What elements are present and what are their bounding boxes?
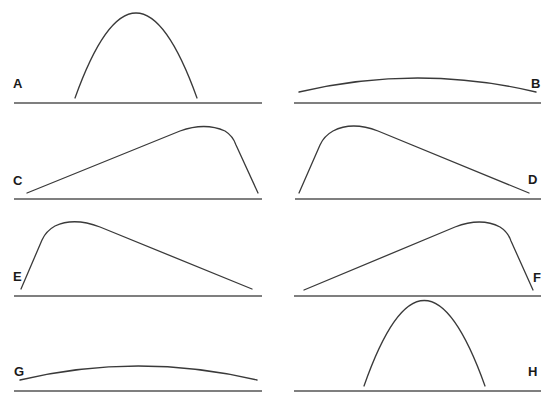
panel-g: G [14, 364, 262, 391]
label-g: G [14, 364, 24, 379]
panel-d: D [295, 126, 541, 199]
label-d: D [528, 172, 537, 187]
profile-diagram: A B C D E F G H [0, 0, 551, 403]
label-c: C [13, 173, 23, 188]
label-f: F [533, 270, 541, 285]
panel-a: A [13, 13, 262, 103]
panel-h: H [294, 301, 541, 392]
curve-e [21, 222, 252, 289]
label-e: E [13, 269, 22, 284]
label-h: H [528, 364, 537, 379]
label-b: B [531, 76, 540, 91]
curve-g [20, 366, 257, 380]
panel-c: C [13, 127, 262, 200]
panel-e: E [13, 222, 262, 296]
curve-a [75, 13, 197, 98]
curve-d [299, 126, 529, 193]
curve-c [27, 127, 258, 194]
panel-f: F [294, 222, 541, 296]
curve-h [364, 301, 485, 387]
curve-b [299, 78, 536, 92]
curve-f [304, 222, 533, 290]
label-a: A [13, 76, 23, 91]
panel-b: B [294, 76, 541, 103]
